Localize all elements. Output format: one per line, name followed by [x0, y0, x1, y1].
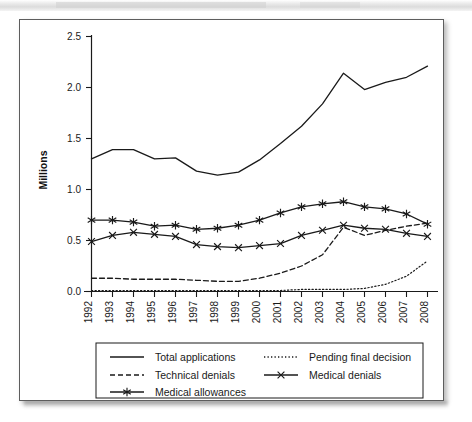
series-technical-denials	[92, 223, 428, 281]
legend-item-medical-denials[interactable]: Medical denials	[264, 369, 381, 381]
series-line	[92, 202, 428, 230]
series-pending-final-decision	[92, 261, 428, 291]
y-tick-label: 0.0	[67, 286, 81, 297]
x-tick-label: 2003	[314, 301, 325, 324]
x-tick-label: 2006	[377, 301, 388, 324]
y-tick-label: 1.5	[67, 133, 81, 144]
x-tick-label: 2000	[251, 301, 262, 324]
series-line	[92, 225, 428, 247]
series-medical-denials	[88, 222, 431, 251]
figure-root: 0.0 0.5 1.0 1.5 2.0 2.5 Millions 1992199…	[0, 0, 472, 422]
legend-item-total-applications[interactable]: Total applications	[110, 351, 236, 363]
y-axis-ticks	[86, 37, 92, 292]
legend-item-pending-final-decision[interactable]: Pending final decision	[264, 351, 411, 363]
x-tick-label: 2002	[293, 301, 304, 324]
chart-figure: 0.0 0.5 1.0 1.5 2.0 2.5 Millions 1992199…	[0, 0, 472, 422]
x-tick-label: 1993	[104, 301, 115, 324]
line-chart: 0.0 0.5 1.0 1.5 2.0 2.5 Millions 1992199…	[0, 0, 472, 422]
x-axis-ticks	[92, 292, 428, 298]
x-tick-label: 2008	[419, 301, 430, 324]
chart-legend: Total applicationsPending final decision…	[96, 343, 423, 398]
series-marker-asterisk	[277, 209, 285, 217]
legend-label: Medical allowances	[155, 386, 246, 398]
series-total-applications	[92, 66, 428, 175]
legend-item-technical-denials[interactable]: Technical denials	[110, 369, 235, 381]
legend-label: Technical denials	[155, 369, 235, 381]
y-axis-title: Millions	[37, 150, 49, 189]
x-tick-label: 2001	[272, 301, 283, 324]
legend-label: Pending final decision	[309, 351, 411, 363]
x-tick-label: 1999	[230, 301, 241, 324]
x-tick-label: 1992	[83, 301, 94, 324]
x-axis-tick-labels: 1992199319941995199619971998199920002001…	[83, 301, 430, 324]
x-tick-label: 1995	[146, 301, 157, 324]
x-tick-label: 1997	[188, 301, 199, 324]
chart-axes	[84, 35, 438, 292]
y-axis-tick-labels: 0.0 0.5 1.0 1.5 2.0 2.5	[67, 31, 81, 297]
y-tick-label: 0.5	[67, 235, 81, 246]
y-tick-label: 2.0	[67, 82, 81, 93]
x-tick-label: 1998	[209, 301, 220, 324]
y-tick-label: 1.0	[67, 184, 81, 195]
y-tick-label: 2.5	[67, 31, 81, 42]
x-tick-label: 2004	[335, 301, 346, 324]
x-tick-label: 2005	[356, 301, 367, 324]
chart-series-layer	[88, 66, 432, 290]
legend-label: Total applications	[155, 351, 236, 363]
legend-label: Medical denials	[309, 369, 381, 381]
series-line	[92, 223, 428, 281]
x-tick-label: 2007	[398, 301, 409, 324]
series-line	[92, 261, 428, 291]
legend-item-medical-allowances[interactable]: Medical allowances	[110, 386, 246, 398]
series-line	[92, 66, 428, 175]
series-medical-allowances	[88, 198, 432, 234]
x-tick-label: 1996	[167, 301, 178, 324]
x-tick-label: 1994	[125, 301, 136, 324]
